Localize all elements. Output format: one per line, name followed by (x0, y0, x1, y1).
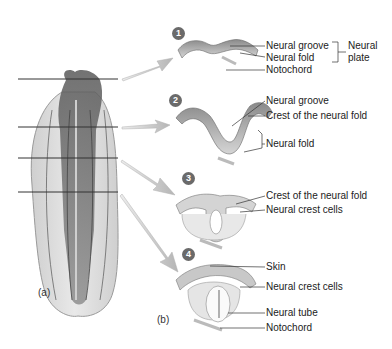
label-neural-tube-4: Neural tube (266, 307, 318, 319)
pointer-arrows (120, 58, 178, 272)
neural-tube-figure: 1 2 3 4 Neural groove Neural fold Notoch… (0, 0, 392, 349)
label-neural-fold-1: Neural fold (266, 52, 314, 64)
stage-1-illustration (178, 39, 258, 64)
label-notochord-1: Notochord (266, 64, 312, 76)
panel-a-label: (a) (38, 287, 50, 298)
stage-2-badge: 2 (169, 94, 182, 107)
stage-3-illustration (176, 194, 256, 248)
label-neural-crest-cells-3: Neural crest cells (266, 204, 343, 216)
label-neural-plate-line1: Neural (348, 40, 377, 52)
label-neural-groove-1: Neural groove (266, 40, 329, 52)
label-neural-plate-line2: plate (348, 52, 370, 64)
panel-b-label: (b) (157, 314, 169, 325)
label-crest-neural-fold-3: Crest of the neural fold (266, 190, 367, 202)
stage-3-badge: 3 (182, 172, 195, 185)
label-neural-crest-cells-4: Neural crest cells (266, 281, 343, 293)
stage-1-badge: 1 (172, 27, 185, 40)
label-neural-groove-2: Neural groove (266, 95, 329, 107)
embryo-illustration (31, 70, 118, 316)
label-skin-4: Skin (266, 261, 285, 273)
label-neural-fold-2: Neural fold (266, 138, 314, 150)
label-notochord-4: Notochord (266, 322, 312, 334)
stage-4-badge: 4 (182, 248, 195, 261)
stage-4-illustration (176, 265, 256, 330)
label-crest-neural-fold-2: Crest of the neural fold (266, 110, 367, 122)
diagram-artwork (0, 0, 392, 349)
stage-2-illustration (176, 103, 272, 164)
